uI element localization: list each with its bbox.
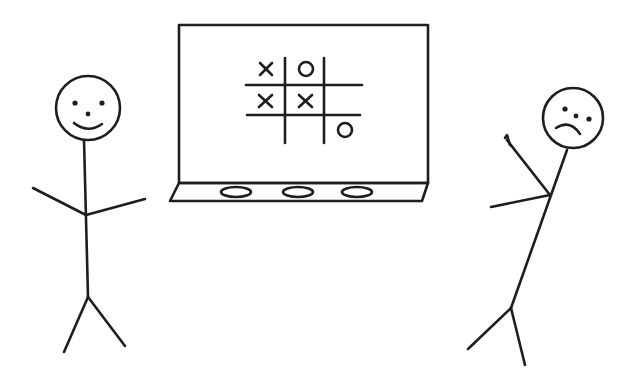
eraser-icon: [221, 187, 251, 197]
chalkboard: [170, 25, 428, 201]
sad-stick-figure: [468, 88, 603, 365]
x-mark-icon: [260, 63, 272, 75]
eraser-icon: [283, 187, 313, 197]
smiling-face-icon: [56, 76, 120, 140]
frowning-face-icon: [543, 88, 603, 148]
illustration-canvas: [0, 0, 630, 379]
x-mark-icon: [299, 95, 312, 107]
happy-stick-figure: [33, 76, 145, 352]
eraser-icon: [342, 187, 372, 197]
board-tray: [170, 183, 428, 201]
x-mark-icon: [259, 95, 272, 107]
o-mark-icon: [299, 62, 313, 76]
o-mark-icon: [338, 123, 352, 137]
